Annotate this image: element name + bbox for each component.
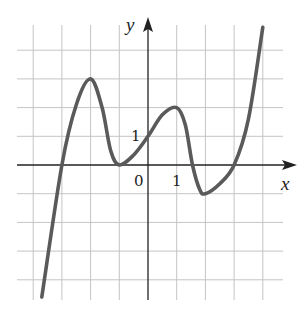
origin-label: 0 xyxy=(134,172,144,190)
x-axis-label: x xyxy=(280,173,290,194)
axes xyxy=(17,17,297,300)
grid xyxy=(17,25,283,300)
x-tick-label-1: 1 xyxy=(172,172,182,190)
function-curve xyxy=(42,27,263,297)
y-tick-label-1: 1 xyxy=(131,127,141,145)
function-graph: y x 0 1 1 xyxy=(0,0,303,316)
y-axis-label: y xyxy=(124,14,135,35)
